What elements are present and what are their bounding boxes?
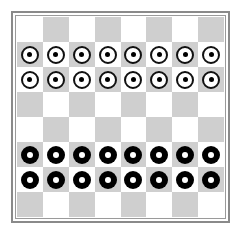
board-square[interactable] [172, 17, 198, 42]
board-square[interactable] [43, 192, 69, 217]
black-piece-icon[interactable] [124, 171, 142, 189]
black-piece-icon[interactable] [47, 171, 65, 189]
board-square[interactable] [17, 167, 43, 192]
board-square[interactable] [172, 142, 198, 167]
black-piece-icon[interactable] [176, 146, 194, 164]
board-square[interactable] [17, 117, 43, 142]
white-piece-icon[interactable] [176, 71, 194, 89]
board-square[interactable] [172, 92, 198, 117]
white-piece-icon[interactable] [47, 46, 65, 64]
board-square[interactable] [95, 142, 121, 167]
board-square[interactable] [146, 92, 172, 117]
black-piece-icon[interactable] [176, 171, 194, 189]
white-piece-icon[interactable] [73, 71, 91, 89]
white-piece-icon[interactable] [124, 46, 142, 64]
black-piece-icon[interactable] [21, 146, 39, 164]
board-square[interactable] [198, 17, 224, 42]
board-square[interactable] [43, 167, 69, 192]
board-square[interactable] [198, 117, 224, 142]
white-piece-icon[interactable] [21, 71, 39, 89]
board-square[interactable] [95, 67, 121, 92]
board-square[interactable] [146, 117, 172, 142]
board-square[interactable] [121, 17, 147, 42]
board-square[interactable] [95, 17, 121, 42]
board-square[interactable] [172, 192, 198, 217]
white-piece-icon[interactable] [150, 71, 168, 89]
board-square[interactable] [69, 192, 95, 217]
black-piece-icon[interactable] [99, 146, 117, 164]
board-square[interactable] [17, 42, 43, 67]
board-square[interactable] [172, 67, 198, 92]
black-piece-icon[interactable] [21, 171, 39, 189]
board-square[interactable] [198, 192, 224, 217]
board-square[interactable] [69, 92, 95, 117]
board-square[interactable] [121, 92, 147, 117]
black-piece-icon[interactable] [202, 146, 220, 164]
board-square[interactable] [69, 142, 95, 167]
board-square[interactable] [69, 167, 95, 192]
board-square[interactable] [198, 167, 224, 192]
board-square[interactable] [198, 67, 224, 92]
board-square[interactable] [172, 117, 198, 142]
board-square[interactable] [121, 117, 147, 142]
white-piece-icon[interactable] [73, 46, 91, 64]
board-square[interactable] [95, 92, 121, 117]
board-square[interactable] [95, 42, 121, 67]
board-square[interactable] [172, 167, 198, 192]
board-square[interactable] [95, 117, 121, 142]
board-square[interactable] [198, 92, 224, 117]
black-piece-icon[interactable] [124, 146, 142, 164]
white-piece-icon[interactable] [202, 46, 220, 64]
board-square[interactable] [146, 42, 172, 67]
board-square[interactable] [146, 142, 172, 167]
board-square[interactable] [146, 67, 172, 92]
board-square[interactable] [69, 117, 95, 142]
board-square[interactable] [121, 142, 147, 167]
board-square[interactable] [95, 167, 121, 192]
board-square[interactable] [198, 142, 224, 167]
board-square[interactable] [146, 167, 172, 192]
board-square[interactable] [17, 142, 43, 167]
board-square[interactable] [95, 192, 121, 217]
white-piece-icon[interactable] [176, 46, 194, 64]
board-square[interactable] [17, 92, 43, 117]
board-square[interactable] [43, 142, 69, 167]
board-square[interactable] [172, 42, 198, 67]
board-square[interactable] [121, 42, 147, 67]
game-board [17, 17, 224, 217]
board-square[interactable] [121, 192, 147, 217]
board-square[interactable] [198, 42, 224, 67]
game-board-inner-border [15, 15, 226, 219]
black-piece-icon[interactable] [202, 171, 220, 189]
white-piece-icon[interactable] [99, 71, 117, 89]
white-piece-icon[interactable] [124, 71, 142, 89]
black-piece-icon[interactable] [47, 146, 65, 164]
white-piece-icon[interactable] [202, 71, 220, 89]
board-square[interactable] [43, 67, 69, 92]
board-square[interactable] [43, 42, 69, 67]
black-piece-icon[interactable] [150, 146, 168, 164]
board-square[interactable] [43, 92, 69, 117]
board-square[interactable] [17, 17, 43, 42]
white-piece-icon[interactable] [150, 46, 168, 64]
board-square[interactable] [43, 117, 69, 142]
black-piece-icon[interactable] [73, 171, 91, 189]
board-square[interactable] [146, 192, 172, 217]
board-square[interactable] [146, 17, 172, 42]
board-square[interactable] [69, 67, 95, 92]
board-square[interactable] [69, 17, 95, 42]
board-square[interactable] [17, 192, 43, 217]
board-square[interactable] [121, 67, 147, 92]
white-piece-icon[interactable] [47, 71, 65, 89]
board-square[interactable] [43, 17, 69, 42]
black-piece-icon[interactable] [73, 146, 91, 164]
game-board-frame [11, 11, 230, 223]
white-piece-icon[interactable] [21, 46, 39, 64]
board-square[interactable] [17, 67, 43, 92]
black-piece-icon[interactable] [99, 171, 117, 189]
board-square[interactable] [121, 167, 147, 192]
board-square[interactable] [69, 42, 95, 67]
black-piece-icon[interactable] [150, 171, 168, 189]
white-piece-icon[interactable] [99, 46, 117, 64]
